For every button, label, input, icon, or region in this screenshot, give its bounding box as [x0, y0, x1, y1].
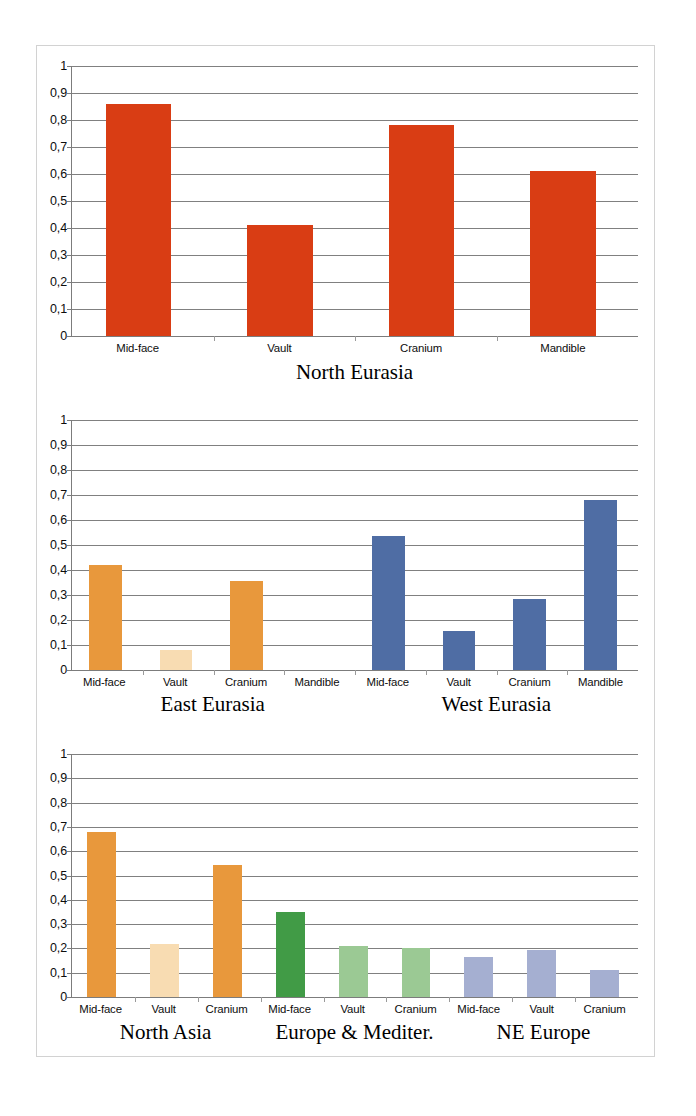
- y-tick-label: 0,8: [50, 463, 67, 477]
- y-tick-label: 0,7: [50, 820, 67, 834]
- y-tick-label: 0,2: [50, 941, 67, 955]
- y-axis-labels-2: 10,90,80,70,60,50,40,30,20,10: [37, 420, 71, 670]
- y-tick-label: 0,4: [50, 563, 67, 577]
- y-tick-label: 0,7: [50, 140, 67, 154]
- y-tick-label: 0,6: [50, 844, 67, 858]
- bar: [160, 650, 193, 670]
- x-tick-mark: [449, 997, 450, 1002]
- bar: [530, 171, 595, 336]
- y-tick-label: 0,9: [50, 86, 67, 100]
- plot-area-2: 10,90,80,70,60,50,40,30,20,10: [71, 420, 638, 670]
- bar-series: [72, 420, 638, 670]
- y-tick-label: 0,2: [50, 275, 67, 289]
- x-tick-label: Mandible: [540, 342, 585, 354]
- x-tick-label: Mid-face: [268, 1003, 310, 1015]
- plot-area-1: 10,90,80,70,60,50,40,30,20,10: [71, 66, 638, 336]
- bar: [584, 500, 617, 670]
- y-tick-mark: [67, 670, 72, 671]
- bar: [527, 950, 556, 997]
- x-tick-mark: [512, 997, 513, 1002]
- axis-baseline: [72, 997, 638, 998]
- y-axis-labels-1: 10,90,80,70,60,50,40,30,20,10: [37, 66, 71, 336]
- bar: [87, 832, 116, 997]
- y-tick-label: 0,3: [50, 248, 67, 262]
- plot-area-3: 10,90,80,70,60,50,40,30,20,10: [71, 754, 638, 997]
- plot-canvas-1: [71, 66, 638, 336]
- x-tick-mark: [143, 670, 144, 675]
- bar: [150, 944, 179, 997]
- x-tick-mark: [324, 997, 325, 1002]
- y-tick-label: 0,3: [50, 917, 67, 931]
- y-tick-label: 0,5: [50, 869, 67, 883]
- x-tick-mark: [198, 997, 199, 1002]
- x-tick-label: Mid-face: [79, 1003, 121, 1015]
- bar: [213, 865, 242, 997]
- y-tick-label: 1: [60, 59, 67, 73]
- plot-canvas-2: [71, 420, 638, 670]
- chart-east-west-eurasia: 10,90,80,70,60,50,40,30,20,10 Mid-faceVa…: [37, 378, 656, 710]
- x-tick-label: Vault: [267, 342, 291, 354]
- bar: [89, 565, 122, 670]
- x-tick-label: Vault: [340, 1003, 364, 1015]
- x-tick-label: Mid-face: [116, 342, 158, 354]
- y-tick-label: 0: [60, 329, 67, 343]
- y-tick-label: 0: [60, 663, 67, 677]
- y-tick-label: 0,3: [50, 588, 67, 602]
- x-tick-label: Cranium: [395, 1003, 437, 1015]
- plot-canvas-3: [71, 754, 638, 997]
- group-title: NE Europe: [497, 1020, 591, 1045]
- x-tick-label: Cranium: [206, 1003, 248, 1015]
- x-tick-label: Cranium: [509, 676, 551, 688]
- y-tick-label: 0,9: [50, 771, 67, 785]
- x-tick-label: Mid-face: [367, 676, 409, 688]
- bar: [372, 536, 405, 670]
- x-tick-label: Cranium: [400, 342, 442, 354]
- x-tick-mark: [497, 670, 498, 675]
- x-tick-mark: [386, 997, 387, 1002]
- y-tick-label: 0,6: [50, 513, 67, 527]
- x-tick-mark: [355, 670, 356, 675]
- y-tick-label: 0,1: [50, 966, 67, 980]
- x-tick-mark: [355, 336, 356, 341]
- bar: [590, 970, 619, 997]
- bar: [389, 125, 454, 336]
- x-tick-label: Vault: [151, 1003, 175, 1015]
- x-tick-mark: [575, 997, 576, 1002]
- bar-series: [72, 66, 638, 336]
- x-tick-label: Cranium: [584, 1003, 626, 1015]
- y-tick-label: 0,1: [50, 638, 67, 652]
- x-tick-mark: [214, 336, 215, 341]
- x-tick-mark: [214, 670, 215, 675]
- y-tick-label: 0,5: [50, 194, 67, 208]
- y-tick-label: 0,2: [50, 613, 67, 627]
- x-tick-label: Cranium: [225, 676, 267, 688]
- x-tick-mark: [261, 997, 262, 1002]
- group-titles-3: North AsiaEurope & Mediter.NE Europe: [71, 1020, 638, 1048]
- y-tick-label: 0,7: [50, 488, 67, 502]
- x-tick-mark: [497, 336, 498, 341]
- x-tick-label: Mid-face: [457, 1003, 499, 1015]
- y-tick-label: 0,6: [50, 167, 67, 181]
- bar: [230, 581, 263, 670]
- y-tick-label: 0,8: [50, 113, 67, 127]
- bar-series: [72, 754, 638, 997]
- x-tick-label: Vault: [529, 1003, 553, 1015]
- x-tick-mark: [426, 670, 427, 675]
- x-tick-label: Mid-face: [83, 676, 125, 688]
- chart-north-eurasia: 10,90,80,70,60,50,40,30,20,10 Mid-faceVa…: [37, 46, 656, 376]
- y-tick-label: 0: [60, 990, 67, 1004]
- y-tick-label: 0,4: [50, 221, 67, 235]
- x-tick-mark: [284, 670, 285, 675]
- x-tick-label: Mandible: [294, 676, 339, 688]
- bar: [464, 957, 493, 997]
- x-tick-label: Vault: [163, 676, 187, 688]
- figure-panel: 10,90,80,70,60,50,40,30,20,10 Mid-faceVa…: [36, 45, 655, 1057]
- bar: [513, 599, 546, 670]
- y-tick-label: 1: [60, 747, 67, 761]
- bar: [339, 946, 368, 997]
- y-tick-label: 0,8: [50, 796, 67, 810]
- y-tick-label: 0,4: [50, 893, 67, 907]
- y-tick-label: 0,9: [50, 438, 67, 452]
- bar: [276, 912, 305, 997]
- y-tick-mark: [67, 997, 72, 998]
